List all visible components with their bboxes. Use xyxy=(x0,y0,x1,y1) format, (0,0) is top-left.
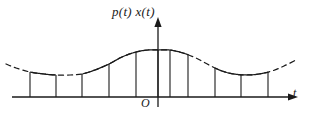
arrow-up-icon xyxy=(154,17,161,27)
signal-envelope-solid xyxy=(136,50,188,55)
modulation-envelope-dashed xyxy=(6,50,296,75)
y-axis-label: p(t) x(t) xyxy=(112,4,155,20)
signal-figure: p(t) x(t) t O xyxy=(0,0,313,127)
t-axis xyxy=(12,93,298,100)
signal-plot-canvas xyxy=(0,0,313,127)
signal-envelope-solid xyxy=(215,68,268,75)
envelope-solid-group xyxy=(30,50,268,75)
signal-envelope-solid xyxy=(30,72,56,75)
origin-label: O xyxy=(141,96,150,111)
t-axis-label: t xyxy=(293,86,296,101)
envelope-dashed-group xyxy=(6,50,296,75)
y-axis xyxy=(154,17,161,107)
